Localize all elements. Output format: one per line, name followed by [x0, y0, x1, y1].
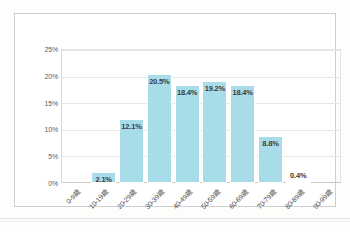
- bar-series: 2.1%12.1%20.5%18.4%19.2%18.4%8.8%0.4%: [62, 50, 340, 183]
- x-tick-slot: 70-79歳: [257, 183, 285, 223]
- page-background: 0%5%10%15%20%25% 2.1%12.1%20.5%18.4%19.2…: [0, 0, 350, 232]
- x-tick-slot: 20-29歳: [117, 183, 145, 223]
- bar-value-label: 0.4%: [290, 171, 306, 180]
- bar[interactable]: 20.5%: [147, 74, 172, 183]
- x-axis-tick-label: 0-9歳: [63, 187, 82, 206]
- x-tick-slot: 10-19歳: [89, 183, 117, 223]
- x-axis-tick-label: 60-69歳: [226, 187, 250, 211]
- plot-area: 2.1%12.1%20.5%18.4%19.2%18.4%8.8%0.4%: [61, 49, 341, 183]
- bar-value-label: 8.8%: [262, 139, 278, 148]
- x-axis-tick-label: 40-49歳: [170, 187, 194, 211]
- x-tick-slot: 30-39歳: [145, 183, 173, 223]
- bar-value-label: 20.5%: [149, 77, 169, 86]
- x-axis: 0-9歳10-19歳20-29歳30-39歳40-49歳50-59歳60-69歳…: [61, 183, 341, 223]
- bar-value-label: 18.4%: [177, 88, 197, 97]
- x-axis-tick-label: 20-29歳: [114, 187, 138, 211]
- bar[interactable]: 8.8%: [258, 136, 283, 183]
- x-axis-tick-label: 90-99歳: [310, 187, 334, 211]
- bar-slot: 18.4%: [229, 50, 257, 183]
- scan-artifact-line-secondary: [0, 221, 350, 222]
- y-axis-tick-label: 20%: [18, 72, 58, 79]
- scan-artifact-line: [0, 218, 350, 219]
- bar[interactable]: 12.1%: [119, 119, 144, 183]
- bar-slot: 18.4%: [173, 50, 201, 183]
- bar[interactable]: 18.4%: [230, 85, 255, 183]
- chart-frame: 0%5%10%15%20%25% 2.1%12.1%20.5%18.4%19.2…: [14, 13, 336, 207]
- y-axis-tick-label: 15%: [18, 99, 58, 106]
- bar-slot: 12.1%: [118, 50, 146, 183]
- y-axis-tick-label: 10%: [18, 126, 58, 133]
- y-axis-tick-label: 5%: [18, 153, 58, 160]
- x-tick-slot: 0-9歳: [61, 183, 89, 223]
- x-axis-tick-label: 10-19歳: [86, 187, 110, 211]
- x-tick-slot: 60-69歳: [229, 183, 257, 223]
- x-tick-slot: 80-89歳: [285, 183, 313, 223]
- bar-slot: 20.5%: [145, 50, 173, 183]
- bar-value-label: 12.1%: [121, 122, 141, 131]
- x-axis-tick-label: 80-89歳: [282, 187, 306, 211]
- y-axis-tick-label: 25%: [18, 46, 58, 53]
- bar-slot: 2.1%: [90, 50, 118, 183]
- y-axis: 0%5%10%15%20%25%: [15, 49, 58, 183]
- bar[interactable]: 2.1%: [91, 172, 116, 183]
- bar-slot: 0.4%: [284, 50, 312, 183]
- bar-slot: [312, 50, 340, 183]
- x-axis-tick-label: 30-39歳: [142, 187, 166, 211]
- bar-value-label: 18.4%: [233, 88, 253, 97]
- bar[interactable]: 19.2%: [202, 81, 227, 183]
- bar-slot: 8.8%: [257, 50, 285, 183]
- x-axis-tick-label: 70-79歳: [254, 187, 278, 211]
- bar-value-label: 19.2%: [205, 84, 225, 93]
- x-tick-slot: 90-99歳: [313, 183, 341, 223]
- x-tick-slot: 50-59歳: [201, 183, 229, 223]
- x-tick-slot: 40-49歳: [173, 183, 201, 223]
- bar-slot: [62, 50, 90, 183]
- bar-slot: 19.2%: [201, 50, 229, 183]
- bar[interactable]: 18.4%: [175, 85, 200, 183]
- x-axis-tick-label: 50-59歳: [198, 187, 222, 211]
- y-axis-tick-label: 0%: [18, 180, 58, 187]
